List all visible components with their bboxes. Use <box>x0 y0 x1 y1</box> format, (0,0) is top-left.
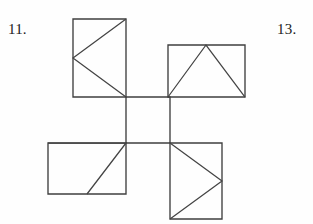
worksheet-page: 11. 13. <box>0 0 313 224</box>
bottom-left-triangle <box>48 143 126 194</box>
top-right-square <box>168 45 245 97</box>
cube-net-figure <box>0 0 313 224</box>
square-group-center <box>126 97 170 143</box>
square-group-top-right <box>168 45 245 97</box>
top-left-square <box>73 19 126 97</box>
top-left-triangle <box>73 19 126 97</box>
square-group-bottom-right <box>170 143 222 219</box>
bottom-right-triangle <box>170 143 222 219</box>
center-square <box>126 97 170 143</box>
top-right-triangle <box>168 45 245 97</box>
bottom-left-square <box>48 143 126 194</box>
bottom-right-square <box>170 143 222 219</box>
square-group-bottom-left <box>48 143 126 194</box>
square-group-top-left <box>73 19 126 97</box>
